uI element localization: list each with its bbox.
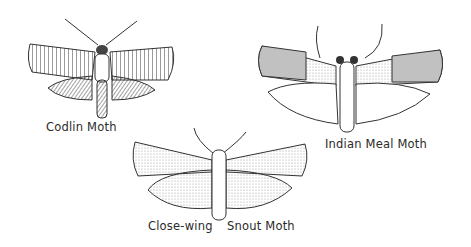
close-wing-snout-moth-drawing — [133, 128, 307, 220]
indian-meal-moth-drawing — [259, 24, 443, 132]
snout-moth-label: Snout Moth — [227, 219, 295, 233]
close-wing-label: Close-wing — [148, 219, 213, 233]
codlin-moth-label: Codlin Moth — [46, 120, 117, 134]
indian-meal-moth-label: Indian Meal Moth — [325, 137, 427, 151]
codlin-moth-drawing — [28, 19, 173, 118]
